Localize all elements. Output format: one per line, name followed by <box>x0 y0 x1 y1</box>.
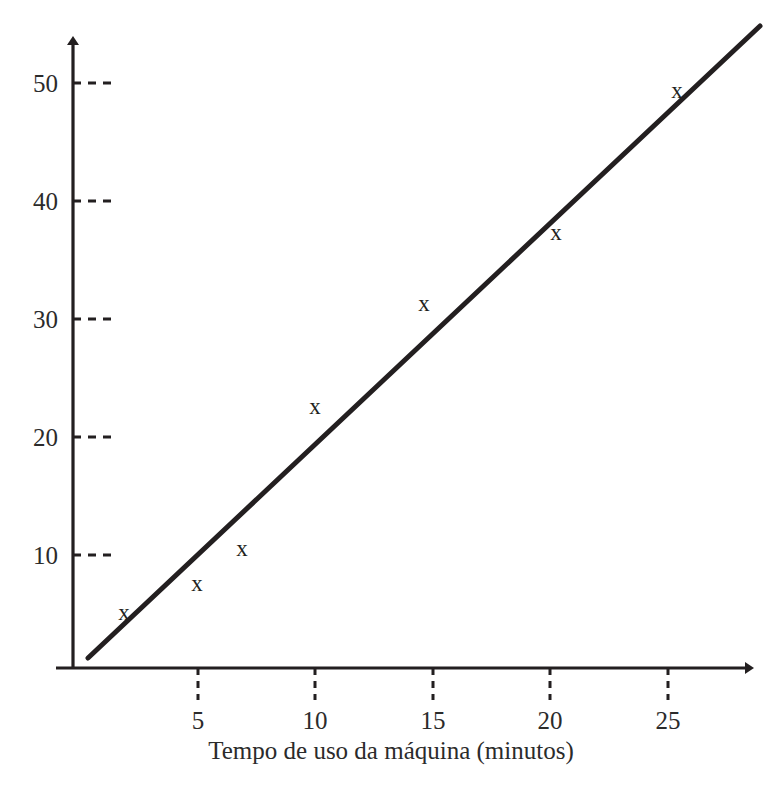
trend-line <box>88 26 760 658</box>
data-point-marker: x <box>550 221 562 244</box>
data-point-marker: x <box>418 292 430 315</box>
data-point-marker: x <box>191 572 203 595</box>
y-tick-label-10: 10 <box>16 543 58 568</box>
y-tick-marks <box>73 83 118 555</box>
data-point-marker: x <box>118 601 130 624</box>
y-tick-label-30: 30 <box>16 307 58 332</box>
chart-canvas <box>0 0 782 788</box>
data-point-marker: x <box>309 395 321 418</box>
data-point-marker: x <box>671 79 683 102</box>
y-tick-label-40: 40 <box>16 189 58 214</box>
y-tick-label-50: 50 <box>16 71 58 96</box>
x-tick-label-10: 10 <box>303 708 328 733</box>
y-tick-label-20: 20 <box>16 425 58 450</box>
x-axis-title: Tempo de uso da máquina (minutos) <box>0 737 782 765</box>
x-tick-label-5: 5 <box>192 708 205 733</box>
x-tick-marks <box>198 668 668 700</box>
data-point-marker: x <box>236 537 248 560</box>
x-tick-label-25: 25 <box>656 708 681 733</box>
x-tick-label-20: 20 <box>538 708 563 733</box>
x-tick-label-15: 15 <box>421 708 446 733</box>
scatter-chart: 50 40 30 20 10 5 10 15 20 25 x x x x x x… <box>0 0 782 788</box>
